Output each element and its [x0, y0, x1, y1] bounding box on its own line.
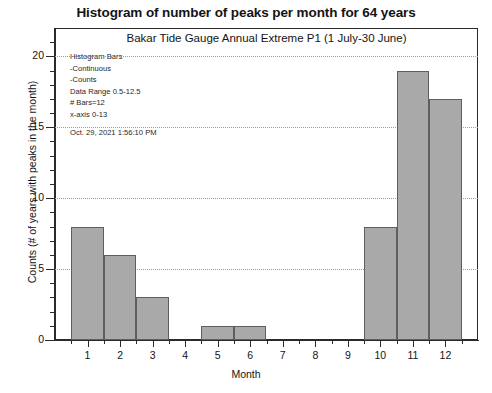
- y-tick-minor: [50, 141, 55, 142]
- x-tick-label: 8: [300, 349, 330, 361]
- x-tick-major: [283, 340, 284, 347]
- histogram-bar: [104, 255, 137, 340]
- x-tick-major: [153, 340, 154, 347]
- x-tick-label: 5: [203, 349, 233, 361]
- x-tick-minor: [429, 340, 430, 344]
- x-tick-label: 11: [398, 349, 428, 361]
- y-tick-minor: [50, 184, 55, 185]
- x-tick-minor: [201, 340, 202, 344]
- x-tick-label: 6: [235, 349, 265, 361]
- histogram-figure: Histogram of number of peaks per month f…: [0, 0, 492, 393]
- x-tick-label: 3: [138, 349, 168, 361]
- histogram-bar: [136, 297, 169, 340]
- y-tick-minor: [50, 297, 55, 298]
- x-tick-label: 7: [268, 349, 298, 361]
- y-tick-minor: [50, 212, 55, 213]
- y-tick-minor: [50, 241, 55, 242]
- x-tick-label: 1: [73, 349, 103, 361]
- x-tick-major: [185, 340, 186, 347]
- y-tick-minor: [50, 156, 55, 157]
- histogram-bar: [397, 71, 430, 340]
- y-tick-minor: [50, 283, 55, 284]
- histogram-bar: [201, 326, 234, 340]
- x-tick-minor: [299, 340, 300, 344]
- x-tick-major: [413, 340, 414, 347]
- y-tick-label: 20: [4, 49, 44, 61]
- x-tick-major: [88, 340, 89, 347]
- x-tick-minor: [267, 340, 268, 344]
- y-tick-minor: [50, 227, 55, 228]
- y-tick-major: [46, 56, 55, 57]
- plot-area: [55, 28, 478, 340]
- y-tick-minor: [50, 99, 55, 100]
- x-tick-minor: [234, 340, 235, 344]
- gridline-y-20: [55, 56, 478, 57]
- x-tick-major: [218, 340, 219, 347]
- x-tick-label: 12: [430, 349, 460, 361]
- y-tick-label: 10: [4, 191, 44, 203]
- histogram-bar: [234, 326, 267, 340]
- x-tick-minor: [332, 340, 333, 344]
- histogram-bar: [71, 227, 104, 340]
- y-tick-label: 5: [4, 262, 44, 274]
- x-tick-label: 2: [105, 349, 135, 361]
- x-tick-minor: [169, 340, 170, 344]
- x-tick-major: [348, 340, 349, 347]
- x-tick-major: [250, 340, 251, 347]
- y-tick-minor: [50, 326, 55, 327]
- y-axis-title: Counts (# of years with peaks in the mon…: [26, 32, 38, 332]
- y-tick-minor: [50, 170, 55, 171]
- x-tick-major: [380, 340, 381, 347]
- y-tick-label: 0: [4, 333, 44, 345]
- x-tick-minor: [397, 340, 398, 344]
- y-tick-minor: [50, 312, 55, 313]
- y-tick-minor: [50, 255, 55, 256]
- histogram-bar: [429, 99, 462, 340]
- y-tick-minor: [50, 42, 55, 43]
- x-tick-label: 9: [333, 349, 363, 361]
- y-tick-minor: [50, 85, 55, 86]
- y-tick-major: [46, 269, 55, 270]
- x-axis-title: Month: [0, 368, 492, 380]
- histogram-bar: [364, 227, 397, 340]
- chart-title: Histogram of number of peaks per month f…: [0, 5, 492, 20]
- x-tick-minor: [136, 340, 137, 344]
- x-tick-minor: [104, 340, 105, 344]
- x-tick-major: [315, 340, 316, 347]
- y-tick-label: 15: [4, 120, 44, 132]
- x-tick-major: [445, 340, 446, 347]
- y-tick-major: [46, 340, 55, 341]
- x-tick-minor: [364, 340, 365, 344]
- y-tick-major: [46, 198, 55, 199]
- y-tick-minor: [50, 71, 55, 72]
- x-tick-minor: [71, 340, 72, 344]
- y-tick-minor: [50, 113, 55, 114]
- x-tick-label: 10: [365, 349, 395, 361]
- x-tick-minor: [462, 340, 463, 344]
- x-tick-major: [120, 340, 121, 347]
- y-tick-major: [46, 127, 55, 128]
- x-tick-label: 4: [170, 349, 200, 361]
